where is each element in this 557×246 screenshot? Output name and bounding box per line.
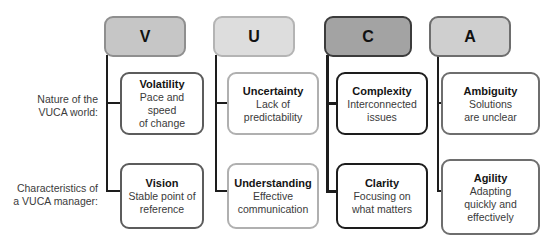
row-label-characteristics-of-vuca-manager: Characteristics of a VUCA manager: bbox=[0, 182, 98, 208]
cell-uncertainty[interactable]: Uncertainty Lack of predictability bbox=[227, 72, 319, 135]
connector-line-u bbox=[215, 55, 217, 191]
cell-title-agility: Agility bbox=[474, 171, 508, 185]
cell-desc-complexity: Interconnected issues bbox=[347, 98, 416, 124]
row-label-nature-of-vuca-world: Nature of the VUCA world: bbox=[0, 93, 98, 119]
cell-desc-ambiguity: Solutions are unclear bbox=[464, 98, 517, 124]
cell-clarity[interactable]: Clarity Focusing on what matters bbox=[336, 163, 428, 229]
connector-line-a bbox=[437, 55, 439, 191]
cell-desc-vision: Stable point of reference bbox=[128, 190, 195, 216]
cell-desc-volatility: Pace and speed of change bbox=[126, 91, 198, 130]
connector-line-v bbox=[106, 55, 108, 191]
vuca-diagram: Nature of the VUCA world: Characteristic… bbox=[0, 0, 557, 246]
header-letter-u: U bbox=[248, 28, 260, 46]
connector-line-c bbox=[326, 55, 329, 191]
cell-vision[interactable]: Vision Stable point of reference bbox=[120, 163, 204, 229]
header-letter-c: C bbox=[362, 28, 374, 46]
cell-title-vision: Vision bbox=[146, 176, 179, 190]
header-pill-u[interactable]: U bbox=[213, 16, 295, 57]
cell-title-ambiguity: Ambiguity bbox=[464, 84, 518, 98]
cell-desc-uncertainty: Lack of predictability bbox=[244, 98, 302, 124]
cell-complexity[interactable]: Complexity Interconnected issues bbox=[336, 72, 428, 135]
cell-title-uncertainty: Uncertainty bbox=[243, 84, 304, 98]
cell-title-understanding: Understanding bbox=[234, 176, 312, 190]
cell-ambiguity[interactable]: Ambiguity Solutions are unclear bbox=[441, 72, 540, 135]
cell-agility[interactable]: Agility Adapting quickly and effectively bbox=[441, 159, 540, 235]
cell-title-volatility: Volatility bbox=[139, 77, 184, 91]
cell-desc-agility: Adapting quickly and effectively bbox=[464, 185, 517, 224]
header-pill-c[interactable]: C bbox=[324, 16, 412, 57]
cell-understanding[interactable]: Understanding Effective communication bbox=[227, 163, 319, 229]
header-pill-a[interactable]: A bbox=[429, 16, 511, 57]
cell-volatility[interactable]: Volatility Pace and speed of change bbox=[120, 72, 204, 135]
header-letter-a: A bbox=[464, 28, 476, 46]
cell-desc-understanding: Effective communication bbox=[238, 190, 309, 216]
cell-desc-clarity: Focusing on what matters bbox=[352, 190, 412, 216]
header-letter-v: V bbox=[140, 28, 151, 46]
cell-title-complexity: Complexity bbox=[352, 84, 411, 98]
cell-title-clarity: Clarity bbox=[365, 176, 399, 190]
header-pill-v[interactable]: V bbox=[104, 16, 186, 57]
